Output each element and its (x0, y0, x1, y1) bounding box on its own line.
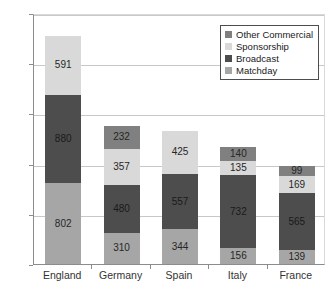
bar-segment-value-label: 565 (288, 217, 305, 227)
stacked-bar[interactable]: 140135732156 (220, 147, 256, 264)
legend-item-label: Sponsorship (236, 42, 289, 52)
bar-segment[interactable]: 99 (279, 166, 315, 176)
bar-segment[interactable]: 310 (104, 233, 140, 264)
bar-segment[interactable]: 880 (45, 95, 81, 183)
bar-segment-value-label: 557 (172, 197, 189, 207)
bar-segment-value-label: 169 (288, 180, 305, 190)
legend-swatch-icon (225, 31, 232, 38)
y-axis-tick-mark (29, 265, 33, 266)
bar-segment[interactable]: 232 (104, 126, 140, 149)
bar-segment[interactable]: 135 (220, 161, 256, 175)
y-axis-tick-mark (29, 114, 33, 115)
legend-item-label: Matchday (236, 66, 277, 76)
bar-segment-value-label: 232 (113, 132, 130, 142)
legend-item[interactable]: Other Commercial (225, 29, 313, 40)
y-axis-tick-mark (29, 64, 33, 65)
bar-segment[interactable]: 139 (279, 250, 315, 264)
y-axis-tick-mark (29, 14, 33, 15)
legend-item-label: Broadcast (236, 54, 279, 64)
legend-swatch-icon (225, 67, 232, 74)
bar-segment-value-label: 140 (230, 149, 247, 159)
bar-segment-value-label: 802 (55, 219, 72, 229)
bar-segment[interactable]: 169 (279, 176, 315, 193)
stacked-bar[interactable]: 425557344 (162, 131, 198, 264)
y-axis-tick-mark (29, 165, 33, 166)
bar-segment-value-label: 135 (230, 163, 247, 173)
bar-segment[interactable]: 480 (104, 185, 140, 233)
y-axis-tick-mark (29, 215, 33, 216)
bar-segment[interactable]: 344 (162, 229, 198, 264)
bar-segment-value-label: 880 (55, 134, 72, 144)
legend-swatch-icon (225, 55, 232, 62)
bar-segment[interactable]: 732 (220, 175, 256, 248)
legend-item[interactable]: Matchday (225, 65, 313, 76)
bar-segment-value-label: 425 (172, 147, 189, 157)
bar-segment-value-label: 344 (172, 242, 189, 252)
legend-item-label: Other Commercial (236, 30, 313, 40)
bar-segment[interactable]: 802 (45, 183, 81, 264)
legend-item[interactable]: Broadcast (225, 53, 313, 64)
bar-segment-value-label: 139 (288, 252, 305, 262)
bar-segment[interactable]: 140 (220, 147, 256, 161)
stacked-bar[interactable]: 99169565139 (279, 166, 315, 264)
bar-segment[interactable]: 591 (45, 36, 81, 95)
bar-segment[interactable]: 557 (162, 174, 198, 230)
bar-segment[interactable]: 565 (279, 193, 315, 250)
bar-segment[interactable]: 156 (220, 248, 256, 264)
legend-swatch-icon (225, 43, 232, 50)
bar-segment-value-label: 156 (230, 251, 247, 261)
gridline (34, 15, 324, 16)
stacked-bar[interactable]: 591880802 (45, 36, 81, 264)
chart-legend: Other CommercialSponsorshipBroadcastMatc… (220, 25, 319, 80)
stacked-bar[interactable]: 232357480310 (104, 126, 140, 264)
stacked-bar-chart: 5918808022323574803104255573441401357321… (0, 0, 335, 289)
bar-segment[interactable]: 357 (104, 149, 140, 185)
bar-segment-value-label: 310 (113, 243, 130, 253)
bar-segment-value-label: 357 (113, 162, 130, 172)
legend-item[interactable]: Sponsorship (225, 41, 313, 52)
bar-segment-value-label: 591 (55, 60, 72, 70)
bar-segment-value-label: 99 (291, 166, 302, 176)
bar-segment-value-label: 732 (230, 207, 247, 217)
x-axis-tick-label: France (256, 269, 335, 281)
bar-segment-value-label: 480 (113, 204, 130, 214)
bar-segment[interactable]: 425 (162, 131, 198, 174)
